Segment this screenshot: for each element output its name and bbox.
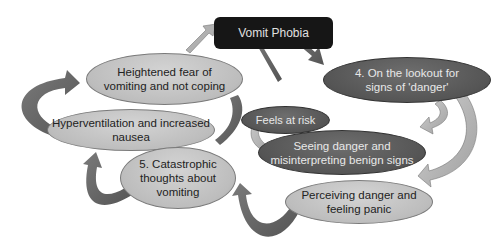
arrow-fear-to-phobia [186,24,216,53]
node-label: 5. Catastrophic thoughts about vomiting [136,157,220,199]
title-box: Vomit Phobia [214,17,333,49]
node-label: Hyperventilation and increased nausea [51,116,211,144]
node-label: Perceiving danger and feeling panic [300,188,418,216]
arrow-lookout-to-seeing [420,100,448,134]
node-catastrophic: 5. Catastrophic thoughts about vomiting [120,147,236,209]
arrow-fear-curve [215,95,242,145]
node-heightened-fear: Heightened fear of vomiting and not copi… [86,53,243,105]
node-label: Seeing danger and misinterpreting benign… [267,139,417,167]
node-label: Heightened fear of vomiting and not copi… [100,65,230,93]
node-lookout: 4. On the lookout for signs of 'danger' [323,57,491,103]
node-perceiving-danger: Perceiving danger and feeling panic [285,180,433,224]
node-feels-at-risk-label: Feels at risk [241,106,330,134]
node-hyperventilation: Hyperventilation and increased nausea [47,109,215,151]
title-label: Vomit Phobia [238,26,309,40]
node-seeing-danger: Seeing danger and misinterpreting benign… [258,130,426,175]
node-label: 4. On the lookout for signs of 'danger' [342,66,472,94]
